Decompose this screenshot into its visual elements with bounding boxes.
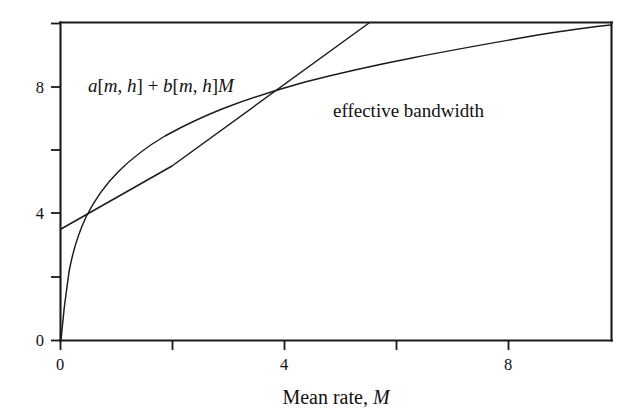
formula-part-m: m <box>104 75 118 96</box>
y-tick-label-8: 8 <box>36 78 44 97</box>
formula-part-a: a <box>88 75 98 96</box>
annotation-tangent-formula: a[m, h] + b[m, h]M <box>88 75 235 96</box>
x-axis-title: Mean rate, M <box>282 386 391 408</box>
x-axis-tick-labels: 0 4 8 <box>56 355 512 374</box>
x-axis-ticks <box>61 341 509 351</box>
formula-comma: , <box>118 75 128 96</box>
x-tick-label-4: 4 <box>280 355 288 374</box>
y-axis-ticks <box>51 24 60 341</box>
annotation-effective-bandwidth: effective bandwidth <box>333 100 485 121</box>
formula-part-h: h <box>127 75 137 96</box>
chart-svg: 0 4 8 0 4 8 a[m, h] + b[m, h]M effective… <box>0 0 640 418</box>
plot-frame <box>60 23 612 341</box>
y-axis-tick-labels: 0 4 8 <box>36 78 44 350</box>
chart-figure: 0 4 8 0 4 8 a[m, h] + b[m, h]M effective… <box>0 0 640 418</box>
x-tick-label-8: 8 <box>504 355 512 374</box>
formula-part-b: b <box>163 75 173 96</box>
formula-comma-2: , <box>193 75 203 96</box>
formula-part-M: M <box>217 75 235 96</box>
x-axis-title-symbol: M <box>372 386 391 408</box>
formula-part-h-2: h <box>202 75 212 96</box>
x-tick-label-0: 0 <box>56 355 64 374</box>
y-tick-label-0: 0 <box>36 331 44 350</box>
series-tangent-line <box>61 23 369 229</box>
formula-plus: + <box>143 75 163 96</box>
formula-part-m-2: m <box>179 75 193 96</box>
y-tick-label-4: 4 <box>36 204 44 223</box>
x-axis-title-text: Mean rate, <box>282 386 373 408</box>
